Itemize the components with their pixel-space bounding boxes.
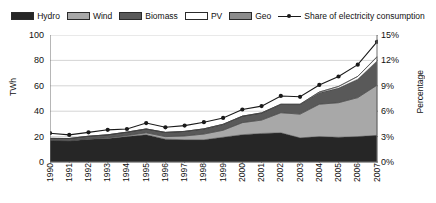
- legend-line-marker-icon: [278, 12, 301, 21]
- y-axis-left-tick-label: 80: [34, 56, 44, 65]
- x-axis-tick-label: 2000: [238, 163, 247, 182]
- legend-swatch-icon: [67, 12, 90, 20]
- legend-label: Hydro: [37, 12, 60, 21]
- line-marker: [144, 121, 148, 125]
- x-axis-ticks: 1990199119921993199419951996199719981999…: [0, 160, 436, 203]
- x-axis-tick-label: 1997: [180, 163, 189, 182]
- line-marker: [298, 95, 302, 99]
- y-axis-right-tick-label: 12%: [381, 56, 399, 65]
- legend-swatch-icon: [11, 12, 34, 20]
- legend-item-geo: Geo: [229, 12, 271, 21]
- x-axis-tick-label: 1995: [142, 163, 151, 182]
- y-axis-left-tick-label: 20: [34, 132, 44, 141]
- chart-figure: HydroWindBiomassPVGeoShare of electricit…: [0, 0, 436, 203]
- x-axis-tick-label: 1996: [161, 163, 170, 182]
- legend-swatch-icon: [119, 12, 142, 20]
- x-axis-tick-label: 1999: [219, 163, 228, 182]
- x-axis-tick-label: 2001: [257, 163, 266, 182]
- plot-area: [50, 35, 377, 162]
- y-axis-right-tick-label: 15%: [381, 31, 399, 40]
- line-marker: [240, 107, 244, 111]
- x-axis-tick-label: 2002: [276, 163, 285, 182]
- y-axis-right-ticks: 0%3%6%9%12%15%: [381, 30, 411, 166]
- legend-label: Geo: [255, 12, 271, 21]
- line-marker: [183, 123, 187, 127]
- y-axis-right-tick-label: 3%: [381, 132, 394, 141]
- legend-label: Share of electricity consumption: [304, 12, 424, 21]
- y-axis-left-tick-label: 60: [34, 81, 44, 90]
- legend-swatch-icon: [185, 12, 208, 20]
- legend-swatch-icon: [229, 12, 252, 20]
- x-axis-tick-label: 2003: [296, 163, 305, 182]
- y-axis-left-ticks: 020406080100: [14, 30, 44, 166]
- y-axis-right-title: Percentage: [415, 70, 425, 113]
- x-axis-tick-label: 2006: [353, 163, 362, 182]
- line-marker: [67, 133, 71, 137]
- line-marker: [259, 104, 263, 108]
- x-axis-tick-label: 1991: [65, 163, 74, 182]
- legend-label: Biomass: [145, 12, 178, 21]
- y-axis-right-tick-label: 9%: [381, 81, 394, 90]
- line-marker: [125, 127, 129, 131]
- y-axis-left-tick-label: 40: [34, 107, 44, 116]
- x-axis-tick-label: 1998: [199, 163, 208, 182]
- line-marker: [86, 130, 90, 134]
- legend-label: Wind: [93, 12, 112, 21]
- legend-item-share-of-electricity-consumption: Share of electricity consumption: [278, 12, 424, 21]
- x-axis-tick-label: 2004: [315, 163, 324, 182]
- legend-item-pv: PV: [185, 12, 222, 21]
- x-axis-tick-label: 2005: [334, 163, 343, 182]
- legend-item-hydro: Hydro: [11, 12, 60, 21]
- line-marker: [317, 83, 321, 87]
- y-axis-right-tick-label: 6%: [381, 107, 394, 116]
- line-marker: [336, 74, 340, 78]
- legend-item-biomass: Biomass: [119, 12, 178, 21]
- line-marker: [106, 128, 110, 132]
- line-marker: [163, 125, 167, 129]
- x-axis-tick-label: 2007: [373, 163, 382, 182]
- x-axis-tick-label: 1990: [46, 163, 55, 182]
- x-axis-tick-label: 1993: [103, 163, 112, 182]
- legend-label: PV: [211, 12, 222, 21]
- line-marker: [221, 116, 225, 120]
- x-axis-tick-label: 1994: [122, 163, 131, 182]
- line-marker: [279, 94, 283, 98]
- chart-legend: HydroWindBiomassPVGeoShare of electricit…: [0, 6, 436, 26]
- legend-item-wind: Wind: [67, 12, 112, 21]
- x-axis-tick-label: 1992: [84, 163, 93, 182]
- y-axis-left-tick-label: 100: [29, 31, 44, 40]
- line-marker: [202, 120, 206, 124]
- line-marker: [356, 63, 360, 67]
